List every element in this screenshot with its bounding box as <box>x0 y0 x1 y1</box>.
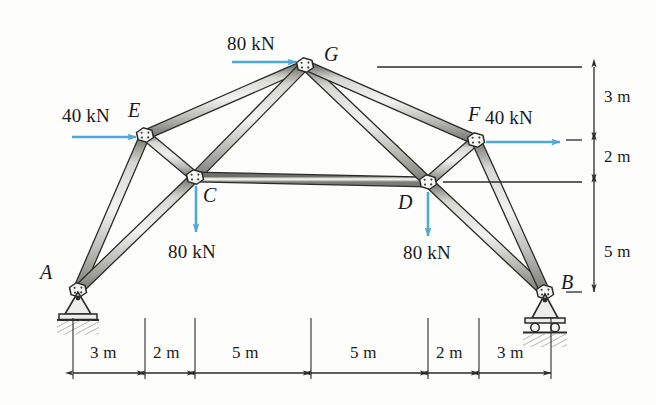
member-fill <box>428 182 545 292</box>
rivet-dot-3 <box>547 293 549 295</box>
rivet-dot-3 <box>80 291 82 293</box>
dim-label-h-1: 2 m <box>153 344 180 361</box>
truss-member-DB <box>428 182 545 292</box>
truss-member-EC <box>145 135 195 177</box>
rivet-dot-1 <box>307 62 309 64</box>
truss-member-EG <box>145 65 305 135</box>
truss-joint-F <box>468 133 485 148</box>
truss-member-CG <box>195 65 305 177</box>
truss-member-FB <box>476 140 545 292</box>
support-roller-B <box>523 294 567 347</box>
member-fill <box>305 65 476 140</box>
roller-wheel-1 <box>551 323 560 332</box>
member-fill <box>476 140 545 292</box>
member-fill <box>78 177 195 290</box>
rivet-dot-1 <box>478 137 480 139</box>
rivet-dot-2 <box>74 292 76 294</box>
rivet-dot-0 <box>541 289 543 291</box>
rivet-dot-2 <box>424 184 426 186</box>
truss-member-CD <box>195 177 428 182</box>
rivet-dot-2 <box>541 294 543 296</box>
dim-label-h-4: 2 m <box>436 344 463 361</box>
force-label-load-D: 80 kN <box>403 243 451 262</box>
member-fill <box>305 65 428 182</box>
dim-label-v-2: 5 m <box>604 243 631 260</box>
member-fill <box>195 65 305 177</box>
rivet-dot-0 <box>141 132 143 134</box>
truss-member-AC <box>78 177 195 290</box>
support-pin-dot <box>76 296 81 301</box>
dim-label-h-2: 5 m <box>232 344 259 361</box>
rivet-dot-1 <box>197 174 199 176</box>
support-pin-dot <box>543 298 548 303</box>
gusset-plate <box>468 133 485 148</box>
rivet-dot-0 <box>424 179 426 181</box>
node-label-C: C <box>203 185 216 205</box>
node-label-F: F <box>468 104 480 124</box>
rivet-dot-1 <box>547 289 549 291</box>
member-fill <box>195 177 428 182</box>
node-label-E: E <box>128 100 140 120</box>
rivet-dot-2 <box>301 67 303 69</box>
rivet-dot-3 <box>197 178 199 180</box>
figure-canvas: 80 kN40 kN40 kN80 kN80 kNABCDEFG3 m2 m5 … <box>0 0 656 405</box>
ground-hatching <box>57 321 99 335</box>
rivet-dot-1 <box>80 287 82 289</box>
gusset-plate <box>297 58 314 73</box>
applied-force-arrows <box>72 62 560 236</box>
rivet-dot-2 <box>141 137 143 139</box>
support-bracket <box>65 292 91 314</box>
truss-supports <box>57 292 567 347</box>
node-label-B: B <box>561 272 573 292</box>
dim-label-h-0: 3 m <box>90 344 117 361</box>
rivet-dot-3 <box>147 136 149 138</box>
dim-label-h-3: 5 m <box>350 344 377 361</box>
truss-members <box>78 65 545 292</box>
truss-member-DF <box>428 140 476 182</box>
truss-member-AE <box>78 135 145 290</box>
rivet-dot-3 <box>430 183 432 185</box>
member-fill <box>145 65 305 135</box>
rivet-dot-3 <box>478 141 480 143</box>
node-label-D: D <box>398 192 412 212</box>
dim-label-v-1: 2 m <box>604 148 631 165</box>
force-label-load-C: 80 kN <box>168 242 216 261</box>
dim-label-v-0: 3 m <box>604 88 631 105</box>
truss-joint-D <box>420 175 437 190</box>
gusset-plate <box>420 175 437 190</box>
rivet-dot-0 <box>74 287 76 289</box>
roller-wheel-0 <box>531 323 540 332</box>
rivet-dot-2 <box>191 179 193 181</box>
rivet-dot-1 <box>147 132 149 134</box>
ground-hatching <box>523 333 567 347</box>
truss-joint-E <box>137 128 154 143</box>
pin-base-plate <box>59 314 97 320</box>
truss-joint-C <box>187 170 204 185</box>
member-fill <box>145 135 195 177</box>
node-label-A: A <box>40 262 52 282</box>
member-fill <box>78 135 145 290</box>
support-pin-A <box>57 292 99 335</box>
member-fill <box>428 140 476 182</box>
rivet-dot-0 <box>301 62 303 64</box>
rivet-dot-0 <box>472 137 474 139</box>
force-label-load-G: 80 kN <box>227 34 275 53</box>
force-label-load-E: 40 kN <box>62 106 110 125</box>
truss-member-GD <box>305 65 428 182</box>
force-label-load-F: 40 kN <box>485 108 533 127</box>
truss-joint-G <box>297 58 314 73</box>
gusset-plate <box>187 170 204 185</box>
rivet-dot-3 <box>307 66 309 68</box>
rivet-dot-0 <box>191 174 193 176</box>
gusset-plate <box>137 128 154 143</box>
node-label-G: G <box>324 44 338 64</box>
rivet-dot-1 <box>430 179 432 181</box>
dim-label-h-5: 3 m <box>497 344 524 361</box>
truss-member-GF <box>305 65 476 140</box>
rivet-dot-2 <box>472 142 474 144</box>
roller-base-plate <box>525 318 565 323</box>
